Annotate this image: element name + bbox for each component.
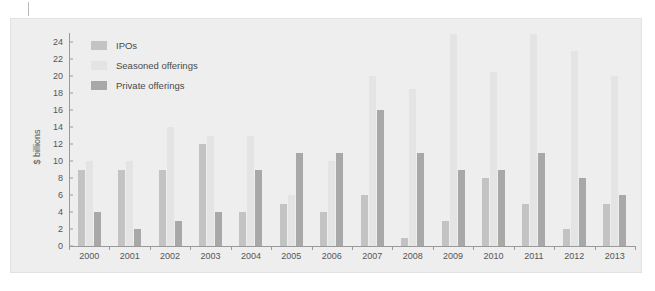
bar-ipos[interactable]: [118, 170, 125, 246]
y-axis-tick-label: 8: [41, 173, 63, 183]
x-axis-tick-mark: [69, 246, 70, 250]
x-axis-tick-label: 2008: [403, 251, 423, 261]
bar-seasoned-offerings[interactable]: [450, 34, 457, 246]
x-axis-tick-label: 2011: [524, 251, 543, 261]
bar-ipos[interactable]: [482, 178, 489, 246]
y-axis-tick-label: 24: [41, 37, 63, 47]
bar-private-offerings[interactable]: [94, 212, 101, 246]
bar-private-offerings[interactable]: [458, 170, 465, 246]
bar-ipos[interactable]: [522, 204, 529, 246]
bar-private-offerings[interactable]: [619, 195, 626, 246]
y-axis-tick-label: 18: [41, 88, 63, 98]
bar-ipos[interactable]: [320, 212, 327, 246]
bar-private-offerings[interactable]: [377, 110, 384, 246]
bar-group: [320, 19, 343, 246]
x-axis-tick-label: 2010: [483, 251, 503, 261]
x-axis-tick-label: 2002: [160, 251, 180, 261]
bar-private-offerings[interactable]: [417, 153, 424, 246]
x-axis-tick-label: 2004: [241, 251, 261, 261]
bar-group: [482, 19, 505, 246]
y-axis-tick-label: 4: [41, 207, 63, 217]
bar-private-offerings[interactable]: [538, 153, 545, 246]
bar-group: [159, 19, 182, 246]
y-axis-tick-label: 20: [41, 71, 63, 81]
x-axis-tick-label: 2006: [322, 251, 342, 261]
bar-private-offerings[interactable]: [498, 170, 505, 246]
chart-figure: $ billions 024681012141618202224 IPOsSea…: [10, 18, 642, 273]
x-axis-tick-mark: [352, 246, 353, 250]
bar-ipos[interactable]: [280, 204, 287, 246]
x-axis-tick-mark: [554, 246, 555, 250]
x-axis-tick-label: 2000: [79, 251, 99, 261]
bar-group: [280, 19, 303, 246]
bar-ipos[interactable]: [199, 144, 206, 246]
bar-ipos[interactable]: [239, 212, 246, 246]
bar-seasoned-offerings[interactable]: [490, 72, 497, 246]
x-axis-tick-label: 2005: [281, 251, 301, 261]
bar-group: [199, 19, 222, 246]
bar-ipos[interactable]: [603, 204, 610, 246]
bar-seasoned-offerings[interactable]: [247, 136, 254, 246]
bar-seasoned-offerings[interactable]: [167, 127, 174, 246]
x-axis-tick-mark: [595, 246, 596, 250]
bar-group: [401, 19, 424, 246]
x-axis-tick-mark: [231, 246, 232, 250]
y-axis-tick-label: 14: [41, 122, 63, 132]
bar-group: [361, 19, 384, 246]
bar-group: [522, 19, 545, 246]
bar-seasoned-offerings[interactable]: [126, 161, 133, 246]
bar-ipos[interactable]: [401, 238, 408, 246]
bar-ipos[interactable]: [78, 170, 85, 246]
y-axis-tick-label: 16: [41, 105, 63, 115]
bar-seasoned-offerings[interactable]: [369, 76, 376, 246]
bar-private-offerings[interactable]: [336, 153, 343, 246]
bar-group: [118, 19, 141, 246]
x-axis-tick-mark: [473, 246, 474, 250]
page-corner-tick: [28, 2, 29, 16]
bar-groups: 2000200120022003200420052006200720082009…: [69, 19, 635, 246]
x-axis-tick-mark: [271, 246, 272, 250]
bar-seasoned-offerings[interactable]: [288, 195, 295, 246]
x-axis-tick-mark: [150, 246, 151, 250]
y-axis-tick-label: 22: [41, 54, 63, 64]
bar-seasoned-offerings[interactable]: [207, 136, 214, 246]
bar-private-offerings[interactable]: [134, 229, 141, 246]
x-axis-tick-mark: [109, 246, 110, 250]
x-axis-tick-label: 2001: [120, 251, 140, 261]
bar-ipos[interactable]: [563, 229, 570, 246]
x-axis-tick-label: 2007: [362, 251, 382, 261]
plot-area: $ billions 024681012141618202224 IPOsSea…: [11, 19, 641, 272]
y-axis-tick-label: 10: [41, 156, 63, 166]
bar-group: [78, 19, 101, 246]
y-axis-tick-label: 2: [41, 224, 63, 234]
bar-seasoned-offerings[interactable]: [328, 161, 335, 246]
x-axis-tick-mark: [190, 246, 191, 250]
bar-private-offerings[interactable]: [255, 170, 262, 246]
bar-seasoned-offerings[interactable]: [409, 89, 416, 246]
x-axis-tick-mark: [392, 246, 393, 250]
bar-private-offerings[interactable]: [175, 221, 182, 246]
bar-ipos[interactable]: [442, 221, 449, 246]
bar-seasoned-offerings[interactable]: [86, 161, 93, 246]
x-axis-tick-mark: [433, 246, 434, 250]
bar-ipos[interactable]: [159, 170, 166, 246]
bar-ipos[interactable]: [361, 195, 368, 246]
bar-group: [442, 19, 465, 246]
x-axis-tick-label: 2009: [443, 251, 463, 261]
bar-private-offerings[interactable]: [579, 178, 586, 246]
x-axis-tick-mark: [514, 246, 515, 250]
bar-group: [239, 19, 262, 246]
bar-private-offerings[interactable]: [296, 153, 303, 246]
x-axis-tick-label: 2012: [564, 251, 584, 261]
bar-seasoned-offerings[interactable]: [611, 76, 618, 246]
y-axis-ticks: 024681012141618202224: [35, 19, 71, 274]
y-axis-tick-label: 0: [41, 241, 63, 251]
x-axis-tick-mark: [635, 246, 636, 250]
bar-seasoned-offerings[interactable]: [571, 51, 578, 246]
x-axis-tick-label: 2013: [605, 251, 625, 261]
x-axis-tick-mark: [312, 246, 313, 250]
bar-seasoned-offerings[interactable]: [530, 34, 537, 246]
bar-group: [563, 19, 586, 246]
bar-private-offerings[interactable]: [215, 212, 222, 246]
y-axis-tick-label: 6: [41, 190, 63, 200]
